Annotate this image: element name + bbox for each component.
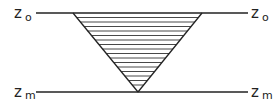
label-zm-right-subscript: m [262,89,273,101]
triangle-hatching [77,18,199,86]
label-zm-left-subscript: m [25,89,36,101]
label-z0-left: z [14,4,22,22]
triangle-diagram: z o z m z o z m [0,0,279,101]
triangle-left-side [73,13,138,92]
label-z0-left-subscript: o [25,11,32,24]
label-zm-left: z [14,83,22,101]
triangle-right-side [138,13,202,92]
label-zm-right: z [251,83,259,101]
label-z0-right-subscript: o [262,11,269,24]
label-z0-right: z [251,4,259,22]
